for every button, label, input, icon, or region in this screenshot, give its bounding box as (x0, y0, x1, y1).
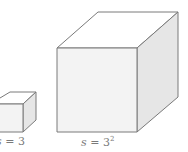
large-cube-label-base: 3 (103, 136, 110, 149)
small-cube-front-face (0, 104, 23, 132)
large-cube-label-exponent: 2 (110, 135, 114, 143)
small-cube (0, 92, 36, 132)
large-cube (57, 12, 178, 132)
small-cube-label-base: 3 (18, 135, 25, 148)
small-cube-label-eq: = (2, 135, 18, 148)
large-cube-label-eq: = (87, 136, 103, 149)
large-cube-front-face (57, 48, 137, 132)
cubes-figure (0, 0, 188, 152)
large-cube-label: s = 32 (81, 135, 114, 149)
small-cube-label: s = 3 (0, 135, 25, 148)
